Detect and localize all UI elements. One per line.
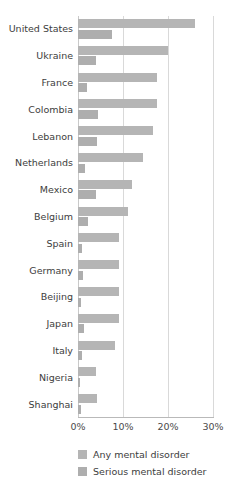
bar-row [78,311,213,338]
bar-serious-mental-disorder [78,378,80,387]
bar-any-mental-disorder [78,46,168,55]
bar-row [78,177,213,204]
bar-row [78,391,213,418]
bar-row [78,96,213,123]
category-axis-labels: United StatesUkraineFranceColombiaLebano… [0,16,73,418]
legend-swatch-icon [78,467,87,476]
x-tick-label-20: 20% [157,421,178,432]
category-label-lebanon: Lebanon [0,131,73,142]
bar-serious-mental-disorder [78,83,87,92]
bar-any-mental-disorder [78,153,143,162]
category-label-beijing: Beijing [0,291,73,302]
bar-any-mental-disorder [78,207,128,216]
bar-row [78,338,213,365]
bar-chart: United StatesUkraineFranceColombiaLebano… [0,0,236,490]
bar-row [78,204,213,231]
legend-swatch-icon [78,450,87,459]
bar-any-mental-disorder [78,260,119,269]
category-label-united-states: United States [0,23,73,34]
category-label-colombia: Colombia [0,104,73,115]
category-label-germany: Germany [0,265,73,276]
bar-serious-mental-disorder [78,164,85,173]
category-label-belgium: Belgium [0,211,73,222]
bar-row [78,16,213,43]
category-label-italy: Italy [0,345,73,356]
bar-serious-mental-disorder [78,137,97,146]
bar-any-mental-disorder [78,314,119,323]
bar-serious-mental-disorder [78,351,82,360]
bar-any-mental-disorder [78,180,132,189]
bar-serious-mental-disorder [78,110,98,119]
bar-row [78,70,213,97]
bar-serious-mental-disorder [78,298,81,307]
x-axis-line [78,417,214,418]
bar-serious-mental-disorder [78,244,82,253]
legend-label: Any mental disorder [93,449,189,460]
bar-rows [78,16,213,418]
category-label-nigeria: Nigeria [0,372,73,383]
category-label-mexico: Mexico [0,184,73,195]
category-label-shanghai: Shanghai [0,399,73,410]
bar-any-mental-disorder [78,233,119,242]
bar-serious-mental-disorder [78,30,112,39]
bar-row [78,150,213,177]
bar-row [78,364,213,391]
bar-any-mental-disorder [78,394,97,403]
bar-serious-mental-disorder [78,271,83,280]
bar-row [78,284,213,311]
bar-any-mental-disorder [78,367,96,376]
bar-any-mental-disorder [78,73,157,82]
x-axis-tick-labels: 0%10%20%30% [0,421,236,435]
plot-area [78,16,213,418]
bar-any-mental-disorder [78,341,115,350]
bar-serious-mental-disorder [78,324,84,333]
bar-serious-mental-disorder [78,217,88,226]
x-tick-label-30: 30% [202,421,223,432]
category-label-japan: Japan [0,318,73,329]
legend-label: Serious mental disorder [93,466,207,477]
bar-row [78,230,213,257]
category-label-netherlands: Netherlands [0,157,73,168]
bar-row [78,123,213,150]
bar-row [78,257,213,284]
x-tick-label-0: 0% [70,421,85,432]
bar-serious-mental-disorder [78,405,81,414]
bar-any-mental-disorder [78,99,157,108]
legend-item: Any mental disorder [78,448,207,461]
category-label-france: France [0,77,73,88]
legend-item: Serious mental disorder [78,465,207,478]
gridline-30 [213,16,214,418]
category-label-spain: Spain [0,238,73,249]
bar-serious-mental-disorder [78,190,96,199]
chart-legend: Any mental disorderSerious mental disord… [78,448,207,482]
bar-serious-mental-disorder [78,56,96,65]
bar-row [78,43,213,70]
bar-any-mental-disorder [78,19,195,28]
x-tick-label-10: 10% [112,421,133,432]
bar-any-mental-disorder [78,287,119,296]
bar-any-mental-disorder [78,126,153,135]
category-label-ukraine: Ukraine [0,50,73,61]
